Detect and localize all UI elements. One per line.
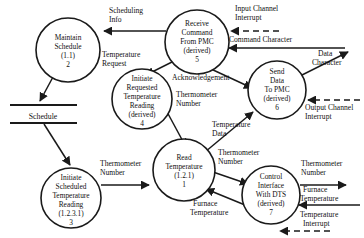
flow-label-scheduling-info: Scheduling Info	[109, 6, 143, 24]
flow-label-temperature-request-line-1: Request	[102, 59, 127, 68]
process-maintain-schedule[interactable]: Maintain Schedule (1.1) 2	[36, 18, 100, 82]
process-2-line-3: 2	[66, 60, 70, 69]
flow-line-schedule-read	[44, 124, 70, 165]
process-1-line-2: (1.2.1)	[174, 171, 194, 180]
flow-label-furnace-temperature-p7-line-0: Furnace	[193, 199, 218, 208]
flow-label-thermometer-number-p7: Thermometer Number	[218, 148, 260, 166]
flow-label-scheduling-info-line-0: Scheduling	[109, 6, 143, 15]
flow-label-input-channel-interrupt: Input Channel Interrupt	[235, 4, 278, 22]
flow-label-output-channel-interrupt: Output Channel Interrupt	[305, 103, 353, 121]
process-3-line-2: Temperature	[52, 191, 90, 200]
process-7-line-2: With DTS	[256, 190, 286, 199]
process-3-line-0: Initiate	[61, 173, 83, 182]
flow-label-thermometer-number-p4-line-0: Thermometer	[176, 90, 218, 99]
process-5-line-1: Command	[182, 28, 213, 37]
flow-label-furnace-temperature-p7-line-1: Temperature	[190, 208, 229, 217]
flow-label-scheduling-info-line-1: Info	[109, 15, 122, 24]
process-3-line-5: 3	[69, 218, 73, 227]
flow-label-temperature-data-line-0: Temperature	[212, 120, 251, 129]
flow-label-thermometer-number-p7-line-1: Number	[218, 157, 243, 166]
flow-label-output-channel-interrupt-line-1: Interrupt	[305, 112, 332, 121]
flow-label-acknowledgement: Acknowledgement	[172, 73, 230, 82]
process-3-line-3: Reading	[59, 200, 84, 209]
flow-label-thermometer-number-out-line-0: Thermometer	[301, 159, 343, 168]
flow-label-furnace-temperature-in: Furnace Temperature	[300, 185, 339, 203]
flow-label-acknowledgement-line-0: Acknowledgement	[172, 73, 230, 82]
process-6-line-1: Data	[270, 76, 285, 85]
flow-label-temperature-interrupt-line-1: Interrupt	[303, 219, 330, 228]
flow-label-furnace-temperature-in-line-1: Temperature	[300, 194, 339, 203]
process-5-line-3: (derived)	[183, 46, 211, 55]
dfd-canvas: Schedule Maintain Schedule (1.1) 2 Recei…	[0, 0, 364, 238]
dfd-diagram: Schedule Maintain Schedule (1.1) 2 Recei…	[0, 0, 364, 238]
flow-label-furnace-temperature-in-line-0: Furnace	[303, 185, 328, 194]
process-read-temperature[interactable]: Read Temperature (1.2.1) 1	[153, 139, 215, 201]
flow-label-thermometer-number-p7-line-0: Thermometer	[218, 148, 260, 157]
flow-label-thermometer-number-p4: Thermometer Number	[176, 90, 218, 108]
flow-label-data-character-line-0: Data	[318, 49, 333, 58]
process-2-line-0: Maintain	[55, 33, 82, 42]
process-initiate-scheduled-temperature-reading[interactable]: Initiate Scheduled Temperature Reading (…	[41, 168, 101, 228]
process-4-line-1: Requested	[127, 83, 158, 92]
process-6-line-0: Send	[270, 67, 285, 76]
process-4-line-5: 4	[140, 119, 144, 128]
flow-label-input-channel-interrupt-line-0: Input Channel	[235, 4, 278, 13]
process-4-line-0: Initiate	[132, 74, 154, 83]
flow-label-data-character-line-1: Character	[312, 58, 342, 67]
datastore-schedule: Schedule	[10, 105, 77, 123]
flow-label-command-character: Command Character	[229, 35, 293, 44]
flow-label-furnace-temperature-p7: Furnace Temperature	[190, 199, 229, 217]
process-6-line-2: To PMC	[264, 85, 289, 94]
process-6-line-3: (derived)	[263, 94, 291, 103]
flow-label-temperature-request-line-0: Temperature	[102, 50, 141, 59]
process-4-line-4: (derived)	[128, 110, 156, 119]
flow-label-temperature-data-line-1: Data	[212, 129, 227, 138]
process-control-interface-with-dts[interactable]: Control Interface With DTS (derived) 7	[242, 166, 300, 224]
flow-line-schedule-write	[40, 77, 53, 101]
flow-label-thermometer-number-out-line-1: Number	[301, 168, 326, 177]
flow-label-thermometer-number-p3-line-0: Thermometer	[100, 159, 142, 168]
flow-label-data-character: Data Character	[312, 49, 342, 67]
process-7-line-4: 7	[269, 208, 273, 217]
process-send-data-to-pmc[interactable]: Send Data To PMC (derived) 6	[248, 61, 306, 119]
process-7-line-0: Control	[260, 172, 283, 181]
process-6-line-4: 6	[275, 103, 279, 112]
process-1-line-1: Temperature	[165, 162, 203, 171]
flow-label-output-channel-interrupt-line-0: Output Channel	[305, 103, 353, 112]
flow-label-input-channel-interrupt-line-1: Interrupt	[235, 13, 262, 22]
process-receive-command-from-pmc[interactable]: Receive Command From PMC (derived) 5	[165, 10, 229, 74]
process-7-line-1: Interface	[258, 181, 285, 190]
process-4-line-2: Temperature	[123, 92, 161, 101]
process-4-line-3: Reading	[130, 101, 155, 110]
datastore-schedule-label: Schedule	[29, 112, 58, 121]
process-initiate-requested-temperature-reading[interactable]: Initiate Requested Temperature Reading (…	[112, 69, 172, 129]
flow-label-command-character-line-0: Command Character	[229, 35, 293, 44]
flow-label-temperature-interrupt-line-0: Temperature	[300, 210, 339, 219]
process-2-line-2: (1.1)	[61, 51, 76, 60]
process-3-line-1: Scheduled	[56, 182, 87, 191]
process-7-line-3: (derived)	[257, 199, 285, 208]
process-3-line-4: (1.2.3.1)	[58, 209, 84, 218]
process-2-line-1: Schedule	[54, 42, 82, 51]
flow-label-thermometer-number-p4-line-1: Number	[176, 99, 201, 108]
process-5-line-2: From PMC	[180, 37, 214, 46]
flow-label-temperature-interrupt: Temperature Interrupt	[300, 210, 339, 228]
flow-label-thermometer-number-out: Thermometer Number	[301, 159, 343, 177]
flow-label-temperature-request: Temperature Request	[102, 50, 141, 68]
process-1-line-3: 1	[182, 180, 186, 189]
flow-label-thermometer-number-p3: Thermometer Number	[100, 159, 142, 177]
process-1-line-0: Read	[176, 153, 191, 162]
process-5-line-0: Receive	[185, 19, 210, 28]
process-5-line-4: 5	[195, 55, 199, 64]
flow-line-thermometer-number-p7	[213, 172, 248, 184]
flow-label-thermometer-number-p3-line-1: Number	[100, 168, 125, 177]
